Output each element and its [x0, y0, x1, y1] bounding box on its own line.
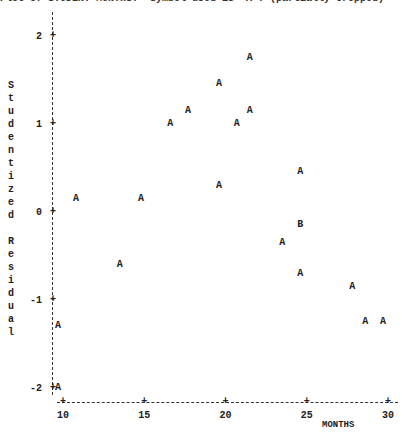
y-axis-label-char: l: [6, 327, 16, 338]
x-tick-mark: +: [222, 397, 230, 407]
data-point: B: [295, 220, 305, 230]
data-point: A: [277, 238, 287, 248]
y-tick-label: -1: [20, 295, 42, 306]
chart-title: Plot of STUDENT*MONTHS. Symbol used is '…: [0, 0, 384, 4]
y-tick-label: 0: [20, 207, 42, 218]
y-tick-mark: +: [49, 207, 57, 217]
y-axis-label-char: e: [6, 249, 16, 260]
data-point: A: [214, 79, 224, 89]
y-tick-mark: +: [49, 119, 57, 129]
y-axis-label-char: e: [6, 132, 16, 143]
y-axis-label-char: d: [6, 288, 16, 299]
y-tick-label: 2: [20, 31, 42, 42]
x-tick-mark: +: [140, 397, 148, 407]
y-axis-label-char: s: [6, 262, 16, 273]
y-axis-label-char: z: [6, 184, 16, 195]
y-axis-label-char: a: [6, 314, 16, 325]
y-axis-label-char: t: [6, 93, 16, 104]
y-axis-label-char: u: [6, 301, 16, 312]
data-point: A: [115, 260, 125, 270]
y-axis-label-char: u: [6, 106, 16, 117]
y-tick-label: -2: [20, 383, 42, 394]
x-tick-label: 20: [211, 410, 241, 421]
x-axis-label: MONTHS: [322, 420, 354, 430]
y-axis-label-char: d: [6, 210, 16, 221]
y-axis-label-char: d: [6, 119, 16, 130]
data-point: A: [347, 282, 357, 292]
data-point: A: [165, 119, 175, 129]
y-axis-label-char: S: [6, 80, 16, 91]
data-point: A: [245, 53, 255, 63]
data-point: A: [53, 383, 63, 393]
data-point: A: [360, 317, 370, 327]
y-axis-line: [52, 12, 53, 395]
y-axis-label-char: t: [6, 158, 16, 169]
data-point: A: [136, 194, 146, 204]
x-tick-mark: +: [59, 397, 67, 407]
x-tick-label: 15: [129, 410, 159, 421]
data-point: A: [378, 317, 388, 327]
y-axis-label-char: i: [6, 171, 16, 182]
data-point: A: [53, 321, 63, 331]
x-tick-label: 25: [292, 410, 322, 421]
x-tick-label: 30: [373, 410, 403, 421]
y-axis-label-char: R: [6, 236, 16, 247]
data-point: A: [71, 194, 81, 204]
y-axis-label-char: n: [6, 145, 16, 156]
x-tick-mark: +: [303, 397, 311, 407]
y-axis-label-char: i: [6, 275, 16, 286]
data-point: A: [295, 269, 305, 279]
data-point: A: [232, 119, 242, 129]
data-point: A: [214, 181, 224, 191]
y-tick-mark: +: [49, 31, 57, 41]
y-tick-mark: +: [49, 295, 57, 305]
data-point: A: [183, 106, 193, 116]
y-tick-label: 1: [20, 119, 42, 130]
data-point: A: [295, 167, 305, 177]
y-axis-label-char: e: [6, 197, 16, 208]
x-tick-label: 10: [48, 410, 78, 421]
x-tick-mark: +: [384, 397, 392, 407]
data-point: A: [245, 106, 255, 116]
